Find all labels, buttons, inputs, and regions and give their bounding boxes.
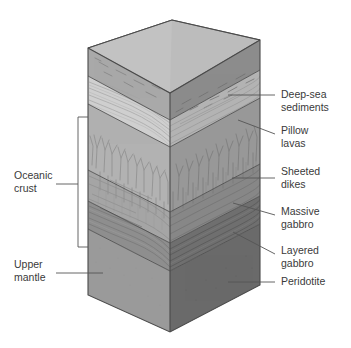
right-label-massive-gabbro-line1: Massive [281, 205, 320, 217]
left-label-group: Oceanic crust Upper mantle [14, 169, 53, 283]
oceanic-crust-bracket [56, 117, 88, 247]
diagram-canvas: Oceanic crust Upper mantle Deep-sea sedi… [0, 0, 351, 348]
right-label-deep-sea-sediments-line2: sediments [281, 101, 329, 113]
right-label-pillow-lavas-line1: Pillow [281, 124, 309, 136]
right-label-layered-gabbro-line1: Layered [281, 244, 319, 256]
left-label-upper-mantle-line1: Upper [14, 258, 43, 270]
right-label-group: Deep-sea sediments Pillow lavas Sheeted … [281, 88, 329, 287]
left-label-upper-mantle-line2: mantle [14, 271, 46, 283]
right-label-peridotite-line1: Peridotite [281, 275, 326, 287]
left-label-oceanic-crust-line2: crust [14, 182, 37, 194]
right-label-pillow-lavas-line2: lavas [281, 137, 306, 149]
block-diagram-svg: Oceanic crust Upper mantle Deep-sea sedi… [0, 0, 351, 348]
right-label-sheeted-dikes-line2: dikes [281, 178, 306, 190]
right-label-layered-gabbro-line2: gabbro [281, 257, 314, 269]
right-label-deep-sea-sediments-line1: Deep-sea [281, 88, 327, 100]
right-label-massive-gabbro-line2: gabbro [281, 218, 314, 230]
left-label-oceanic-crust-line1: Oceanic [14, 169, 53, 181]
right-label-sheeted-dikes-line1: Sheeted [281, 165, 320, 177]
